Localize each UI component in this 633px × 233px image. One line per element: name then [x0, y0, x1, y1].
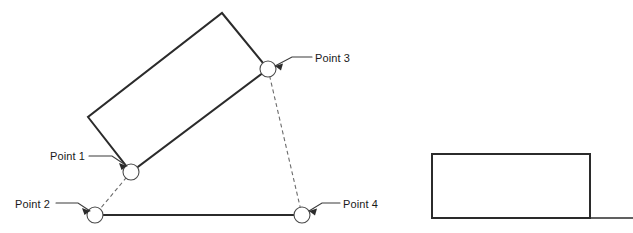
label-point2: Point 2	[15, 198, 50, 210]
label-point1: Point 1	[50, 150, 85, 162]
rotated-rectangle	[88, 13, 268, 172]
point-marker-point3[interactable]	[260, 61, 276, 77]
diagram-canvas: Point 1 Point 2 Point 3 Point 4	[0, 0, 633, 233]
diagram-svg: Point 1 Point 2 Point 3 Point 4	[0, 0, 633, 233]
label-point4: Point 4	[343, 198, 378, 210]
upright-rectangle	[432, 154, 590, 218]
dashed-connector-group	[95, 69, 302, 215]
dashed-line-point3-point4	[268, 69, 302, 215]
leader-group	[56, 57, 340, 216]
point-marker-group	[87, 61, 310, 223]
label-point3: Point 3	[315, 52, 350, 64]
point-marker-point4[interactable]	[294, 207, 310, 223]
point-marker-point2[interactable]	[87, 207, 103, 223]
